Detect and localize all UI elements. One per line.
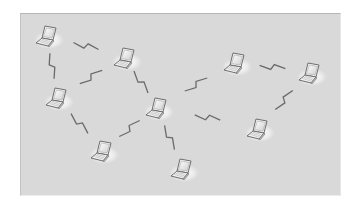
lightning-bolt-icon <box>275 90 293 109</box>
wireless-link <box>185 78 208 91</box>
wireless-link <box>49 53 55 79</box>
lightning-bolt-icon <box>260 65 286 70</box>
laptop-node[interactable] <box>112 48 142 71</box>
lightning-bolt-icon <box>71 114 88 134</box>
lightning-bolt-icon <box>195 115 220 120</box>
laptop-node[interactable] <box>169 159 199 182</box>
laptop-node[interactable] <box>144 98 174 121</box>
laptop-node[interactable] <box>222 53 252 76</box>
wireless-link <box>71 114 88 134</box>
lightning-bolt-icon <box>80 70 102 83</box>
wireless-link <box>275 90 293 109</box>
laptop-node[interactable] <box>89 141 119 164</box>
wireless-link <box>134 71 148 93</box>
lightning-bolt-icon <box>73 42 98 49</box>
lightning-bolt-icon <box>119 120 139 136</box>
network-diagram <box>0 0 355 203</box>
wireless-link <box>80 70 102 83</box>
laptop-node[interactable] <box>34 26 64 49</box>
wireless-link <box>119 120 139 136</box>
wireless-link <box>165 125 175 149</box>
lightning-bolt-icon <box>185 78 208 91</box>
lightning-bolt-icon <box>49 53 55 79</box>
laptop-node[interactable] <box>297 63 327 86</box>
lightning-bolt-icon <box>134 71 148 93</box>
wireless-link <box>260 65 286 70</box>
laptop-node[interactable] <box>44 88 74 111</box>
wireless-link <box>73 42 98 49</box>
laptop-node[interactable] <box>245 119 275 142</box>
lightning-bolt-icon <box>165 125 175 149</box>
wireless-link <box>195 115 220 120</box>
